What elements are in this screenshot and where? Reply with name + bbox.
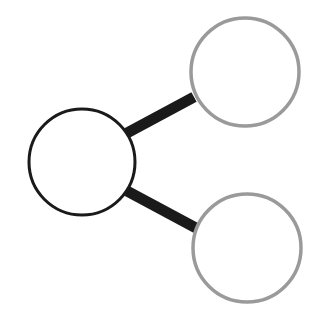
- child-node-bottom: [193, 194, 301, 302]
- share-diagram: [0, 0, 320, 324]
- edge-root-to-child-bottom: [127, 191, 196, 228]
- edge-root-to-child-top: [127, 97, 194, 133]
- root-node: [29, 109, 135, 215]
- child-node-top: [191, 18, 299, 126]
- edges: [127, 97, 196, 228]
- nodes: [29, 18, 301, 302]
